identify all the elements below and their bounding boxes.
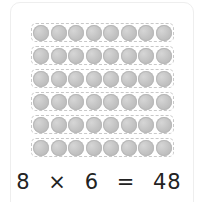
counter-circle-icon xyxy=(86,117,102,133)
counter-array xyxy=(31,23,174,161)
counter-circle-icon xyxy=(103,25,119,41)
counter-row xyxy=(31,69,174,88)
times-sign: × xyxy=(48,170,67,194)
counter-row xyxy=(31,115,174,134)
counter-circle-icon xyxy=(51,94,67,110)
counter-circle-icon xyxy=(138,71,154,87)
counter-circle-icon xyxy=(68,71,84,87)
counter-circle-icon xyxy=(138,25,154,41)
counter-circle-icon xyxy=(86,25,102,41)
counter-circle-icon xyxy=(33,71,49,87)
counter-circle-icon xyxy=(33,94,49,110)
counter-circle-icon xyxy=(68,94,84,110)
counter-circle-icon xyxy=(156,117,172,133)
counter-circle-icon xyxy=(33,117,49,133)
counter-circle-icon xyxy=(86,94,102,110)
counter-circle-icon xyxy=(68,48,84,64)
counter-row xyxy=(31,23,174,42)
counter-circle-icon xyxy=(86,48,102,64)
product: 48 xyxy=(153,170,182,194)
counter-circle-icon xyxy=(51,117,67,133)
counter-circle-icon xyxy=(156,94,172,110)
equals-sign: = xyxy=(117,170,136,194)
counter-circle-icon xyxy=(33,140,49,156)
counter-circle-icon xyxy=(156,140,172,156)
counter-circle-icon xyxy=(51,25,67,41)
counter-circle-icon xyxy=(51,140,67,156)
counter-circle-icon xyxy=(68,140,84,156)
counter-circle-icon xyxy=(156,48,172,64)
counter-circle-icon xyxy=(156,25,172,41)
counter-circle-icon xyxy=(103,94,119,110)
counter-circle-icon xyxy=(138,140,154,156)
counter-circle-icon xyxy=(138,48,154,64)
counter-circle-icon xyxy=(68,117,84,133)
counter-circle-icon xyxy=(138,117,154,133)
counter-circle-icon xyxy=(86,140,102,156)
counter-circle-icon xyxy=(51,71,67,87)
counter-circle-icon xyxy=(156,71,172,87)
counter-circle-icon xyxy=(33,25,49,41)
counter-circle-icon xyxy=(68,25,84,41)
counter-circle-icon xyxy=(103,48,119,64)
counter-row xyxy=(31,138,174,157)
counter-circle-icon xyxy=(103,117,119,133)
counter-circle-icon xyxy=(121,25,137,41)
counter-circle-icon xyxy=(86,71,102,87)
counter-circle-icon xyxy=(103,140,119,156)
counter-row xyxy=(31,46,174,65)
counter-circle-icon xyxy=(121,48,137,64)
counter-row xyxy=(31,92,174,111)
factor-a: 8 xyxy=(16,170,30,194)
counter-circle-icon xyxy=(51,48,67,64)
counter-circle-icon xyxy=(33,48,49,64)
multiplication-equation: 8 × 6 = 48 xyxy=(0,170,198,194)
counter-circle-icon xyxy=(121,117,137,133)
counter-circle-icon xyxy=(121,94,137,110)
factor-b: 6 xyxy=(85,170,99,194)
counter-circle-icon xyxy=(121,140,137,156)
counter-circle-icon xyxy=(138,94,154,110)
counter-circle-icon xyxy=(103,71,119,87)
counter-circle-icon xyxy=(121,71,137,87)
